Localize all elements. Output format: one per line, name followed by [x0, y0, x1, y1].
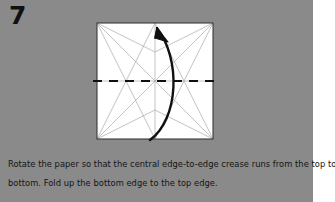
caption: Rotate the paper so that the central edg… — [8, 155, 308, 193]
caption-line-2: bottom. Fold up the bottom edge to the t… — [8, 174, 308, 193]
origami-diagram-svg — [93, 19, 217, 144]
caption-line-1: Rotate the paper so that the central edg… — [8, 155, 308, 174]
origami-diagram — [93, 19, 217, 144]
instruction-page: 7 — [0, 0, 335, 202]
step-number: 7 — [9, 2, 26, 30]
